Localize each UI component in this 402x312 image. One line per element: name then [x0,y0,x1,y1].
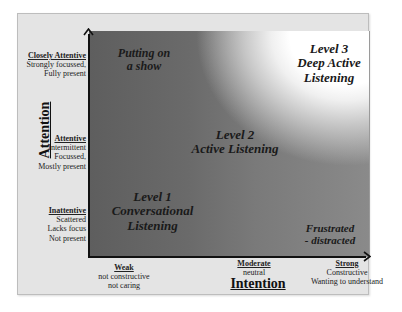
y-level-closely-attentive: Closely Attentive Strongly focussed, Ful… [26,51,86,79]
x-level-title: Weak [88,263,160,272]
x-level-strong: Strong Constructive Wanting to understan… [292,259,402,287]
y-level-desc: Fully present [26,69,86,78]
y-level-desc: Lacks focus [48,224,86,233]
region-putting-on-a-show: Putting on a show [104,47,184,73]
region-line: Conversational [100,204,205,218]
region-line: Listening [100,219,205,233]
x-axis-title: Intention [208,276,308,292]
y-level-desc: Mostly present [38,162,86,171]
x-level-desc: Wanting to understand [292,277,402,286]
x-level-weak: Weak not constructive not caring [88,263,160,291]
y-axis-title: Attention [35,100,55,160]
region-line: Frustrated [300,222,360,234]
region-line: Level 1 [100,190,205,204]
y-level-title: Inattentive [48,206,86,215]
x-level-title: Strong [292,259,402,268]
y-axis-line [88,34,90,257]
x-level-desc: not caring [88,281,160,290]
x-level-desc: not constructive [88,272,160,281]
region-line: Level 3 [284,42,374,56]
region-level-1: Level 1 Conversational Listening [100,190,205,233]
region-line: Listening [284,71,374,85]
region-line: Deep Active [284,56,374,70]
region-frustrated-distracted: Frustrated - distracted [300,222,360,246]
x-level-title: Moderate [224,259,284,268]
y-level-desc: Strongly focussed, [26,60,86,69]
region-level-3: Level 3 Deep Active Listening [284,42,374,85]
region-line: - distracted [300,234,360,246]
x-level-moderate: Moderate neutral [224,259,284,277]
x-axis-line [88,256,366,258]
y-level-desc: Scattered [48,215,86,224]
y-level-desc: Not present [48,234,86,243]
region-line: Active Listening [180,142,290,156]
y-level-inattentive: Inattentive Scattered Lacks focus Not pr… [48,206,86,243]
region-level-2: Level 2 Active Listening [180,128,290,157]
region-line: Level 2 [180,128,290,142]
x-level-desc: Constructive [292,268,402,277]
arrow-up-icon [83,28,94,36]
y-level-title: Closely Attentive [26,51,86,60]
region-line: a show [104,60,184,73]
